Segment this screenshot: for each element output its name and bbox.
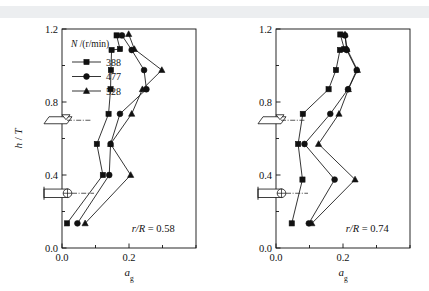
data-point-circle (84, 74, 90, 80)
plot-frame (276, 29, 410, 248)
liquid-surface-icon (44, 115, 92, 124)
data-point-square (114, 33, 119, 38)
data-point-circle (141, 67, 147, 73)
data-point-triangle (126, 31, 132, 37)
legend-label: 528 (106, 86, 121, 97)
data-point-circle (75, 220, 81, 226)
y-tick-label: 1.2 (259, 24, 272, 35)
data-point-square (64, 221, 69, 226)
x-axis-title: ag (338, 266, 348, 283)
x-tick-label: 0.2 (122, 252, 135, 263)
data-point-circle (302, 141, 308, 147)
y-tick-label: 0.8 (45, 97, 58, 108)
data-point-square (300, 111, 305, 116)
data-point-circle (332, 177, 338, 183)
panel-right: 0.00.20.00.40.81.2agr/R = 0.74 (258, 24, 410, 283)
y-tick-label: 0.8 (259, 97, 272, 108)
liquid-surface-icon (258, 115, 306, 124)
data-point-square (100, 172, 105, 177)
data-point-circle (119, 32, 125, 38)
x-axis-title: ag (124, 266, 134, 283)
data-point-square (84, 59, 89, 64)
data-point-square (94, 141, 99, 146)
data-point-square (117, 46, 122, 51)
legend-label: 388 (106, 57, 121, 68)
panel-left: 0.00.20.00.40.81.2agr/R = 0.58h / TN /(r… (12, 24, 196, 283)
y-tick-label: 0.4 (45, 170, 59, 181)
series-markers-477 (302, 32, 360, 226)
data-point-triangle (159, 67, 165, 73)
data-point-square (289, 221, 294, 226)
series-line-477 (304, 35, 356, 223)
legend-label: 477 (106, 71, 121, 82)
data-point-triangle (83, 88, 89, 94)
figure-container: 0.00.20.00.40.81.2agr/R = 0.58h / TN /(r… (0, 0, 429, 291)
data-point-triangle (128, 172, 134, 178)
chart-panels: 0.00.20.00.40.81.2agr/R = 0.58h / TN /(r… (0, 0, 429, 291)
series-markers-528 (82, 31, 165, 226)
legend-entry-477[interactable]: 477 (72, 71, 121, 82)
y-tick-label: 0.0 (45, 243, 58, 254)
data-point-square (300, 177, 305, 182)
x-tick-label: 0.2 (336, 252, 349, 263)
panel-annotation: r/R = 0.74 (346, 223, 390, 234)
y-tick-label: 1.2 (45, 24, 58, 35)
data-point-circle (106, 172, 112, 178)
y-tick-label: 0.4 (259, 170, 273, 181)
data-point-square (106, 111, 111, 116)
series-line-528 (312, 34, 358, 223)
legend-entry-528[interactable]: 528 (72, 86, 121, 97)
data-point-circle (327, 111, 333, 117)
series-line-388 (292, 34, 345, 223)
panel-annotation: r/R = 0.58 (132, 223, 175, 234)
series-line-528 (85, 34, 162, 223)
data-point-triangle (336, 111, 342, 117)
y-axis-title: h / T (12, 128, 24, 149)
data-point-square (326, 87, 331, 92)
data-point-square (296, 141, 301, 146)
legend-entry-388[interactable]: 388 (72, 57, 121, 68)
data-point-square (333, 67, 338, 72)
data-point-triangle (129, 111, 135, 117)
legend-title: N /(r/min) (70, 39, 109, 50)
data-point-square (109, 47, 114, 52)
chart-svg: 0.00.20.00.40.81.2agr/R = 0.58h / TN /(r… (0, 0, 429, 291)
data-point-circle (117, 111, 123, 117)
y-tick-label: 0.0 (259, 243, 272, 254)
